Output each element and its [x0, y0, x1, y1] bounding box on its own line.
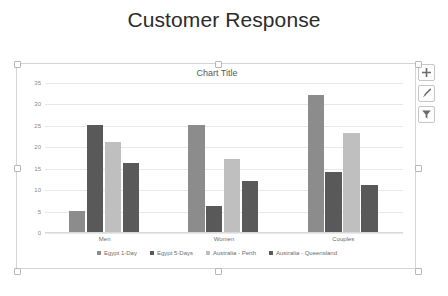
- selection-handle-top-center[interactable]: [215, 61, 222, 68]
- selection-handle-top-left[interactable]: [14, 61, 21, 68]
- bar[interactable]: [105, 142, 121, 232]
- y-axis-tick-label: 20: [34, 144, 41, 150]
- funnel-icon: [421, 109, 432, 120]
- legend-label: Australia - Queensland: [276, 250, 337, 256]
- chart-object[interactable]: Chart Title 05101520253035MenWomenCouple…: [16, 63, 416, 269]
- legend-swatch: [150, 251, 154, 255]
- x-axis-category-label: Men: [99, 236, 111, 242]
- legend-swatch: [97, 251, 101, 255]
- y-axis-tick-label: 10: [34, 187, 41, 193]
- bar[interactable]: [308, 95, 324, 232]
- y-axis-tick-label: 25: [34, 123, 41, 129]
- legend-label: Egypt 5-Days: [157, 250, 193, 256]
- legend-item[interactable]: Egypt 5-Days: [150, 250, 193, 256]
- selection-handle-bottom-left[interactable]: [14, 268, 21, 275]
- plus-icon: [421, 67, 432, 78]
- y-axis-tick-label: 15: [34, 166, 41, 172]
- y-axis-tick-label: 35: [34, 80, 41, 86]
- bar[interactable]: [87, 125, 103, 232]
- selection-handle-bottom-right[interactable]: [415, 268, 422, 275]
- selection-handle-middle-right[interactable]: [415, 165, 422, 172]
- gridline: 30: [45, 104, 403, 105]
- x-axis-line: [45, 232, 403, 233]
- bar[interactable]: [361, 185, 377, 232]
- selection-handle-bottom-center[interactable]: [215, 268, 222, 275]
- brush-icon: [421, 88, 432, 99]
- plot-area[interactable]: 05101520253035MenWomenCouples: [45, 83, 403, 233]
- bar[interactable]: [188, 125, 204, 232]
- x-axis-category-label: Couples: [332, 236, 354, 242]
- x-axis-category-label: Women: [214, 236, 235, 242]
- legend-item[interactable]: Australia - Queensland: [269, 250, 337, 256]
- chart-filters-button[interactable]: [418, 106, 435, 123]
- chart-styles-button[interactable]: [418, 85, 435, 102]
- chart-legend[interactable]: Egypt 1-DayEgypt 5-DaysAustralia - Perth…: [17, 250, 417, 256]
- y-axis-tick-label: 0: [38, 230, 41, 236]
- bar[interactable]: [343, 133, 359, 232]
- legend-label: Egypt 1-Day: [104, 250, 137, 256]
- selection-handle-top-right[interactable]: [415, 61, 422, 68]
- legend-label: Australia - Perth: [213, 250, 256, 256]
- chart-title[interactable]: Chart Title: [17, 68, 417, 78]
- y-axis-tick-label: 5: [38, 209, 41, 215]
- y-axis-tick-label: 30: [34, 101, 41, 107]
- legend-item[interactable]: Egypt 1-Day: [97, 250, 137, 256]
- legend-swatch: [206, 251, 210, 255]
- chart-side-buttons[interactable]: [418, 64, 435, 123]
- legend-swatch: [269, 251, 273, 255]
- selection-handle-middle-left[interactable]: [14, 165, 21, 172]
- bar[interactable]: [69, 211, 85, 232]
- gridline: 35: [45, 83, 403, 84]
- bar[interactable]: [123, 163, 139, 232]
- gridline: 0: [45, 233, 403, 234]
- bar[interactable]: [224, 159, 240, 232]
- bar[interactable]: [242, 181, 258, 232]
- page-title: Customer Response: [0, 8, 448, 32]
- bar[interactable]: [325, 172, 341, 232]
- legend-item[interactable]: Australia - Perth: [206, 250, 256, 256]
- bar[interactable]: [206, 206, 222, 232]
